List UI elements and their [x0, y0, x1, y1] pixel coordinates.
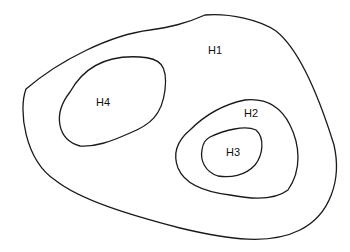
- region-label-h3: H3: [226, 146, 240, 158]
- regions-svg: [0, 0, 350, 252]
- diagram-canvas: H1 H2 H3 H4: [0, 0, 350, 252]
- region-h1-outline: [23, 15, 336, 240]
- region-label-h2: H2: [244, 107, 258, 119]
- region-label-h4: H4: [96, 96, 110, 108]
- region-h4-outline: [59, 57, 165, 146]
- region-label-h1: H1: [208, 44, 222, 56]
